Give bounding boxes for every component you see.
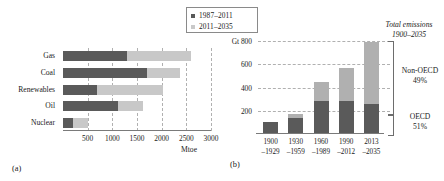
chart-b-annotation-oecd: OECD 51% — [396, 112, 444, 132]
chart-b-ytick-label: Gt 800 — [232, 37, 252, 46]
chart-b-xtick-line2: –2035 — [362, 148, 380, 158]
chart-a-category-labels: GasCoalRenewablesOilNuclear — [0, 48, 59, 131]
chart-b-bracket-non-oecd — [388, 41, 394, 115]
chart-b-plot-area — [258, 41, 384, 134]
chart-b-total-title: Total emissions 1900–2035 — [374, 20, 444, 40]
chart-a-bar-segment-1987-2011 — [63, 85, 97, 95]
chart-b-xtick-label: 1990–2012 — [337, 138, 355, 157]
panel-a-label: (a) — [12, 164, 21, 173]
legend-swatch-light-icon — [191, 25, 195, 29]
chart-b-bar-segment-non-oecd — [364, 42, 379, 104]
chart-b-bar — [339, 68, 354, 134]
chart-a-baseline — [63, 130, 211, 131]
chart-b-bar — [364, 42, 379, 134]
chart-a-xtick-label: 2500 — [179, 134, 194, 143]
chart-b-non-oecd-label: Non-OECD — [396, 66, 444, 76]
chart-b-bar-segment-oecd — [314, 101, 329, 134]
chart-b-oecd-value: 51% — [396, 122, 444, 132]
chart-b-ytick-labels: 200400600Gt 800 — [222, 41, 256, 134]
chart-a-bar-row — [63, 51, 211, 61]
chart-b-xtick-label: 1900–1929 — [262, 138, 280, 157]
chart-b-xtick-line2: –1929 — [262, 148, 280, 158]
chart-a-xtick-label: 1000 — [105, 134, 120, 143]
chart-b-non-oecd-value: 49% — [396, 76, 444, 86]
chart-a-bar-segment-1987-2011 — [63, 118, 73, 128]
chart-a-bar-row — [63, 85, 211, 95]
chart-b-xtick-line1: 1990 — [337, 138, 355, 148]
chart-b-xtick-line1: 1900 — [262, 138, 280, 148]
chart-b-bar-segment-non-oecd — [314, 82, 329, 101]
chart-b-bar — [314, 82, 329, 134]
chart-b-xtick-label: 1960–1989 — [312, 138, 330, 157]
chart-b-ytick-label: 400 — [241, 83, 252, 92]
chart-b-xtick-label: 2013–2035 — [362, 138, 380, 157]
chart-b-xtick-labels: 1900–19291930–19591960–19891990–20122013… — [258, 138, 384, 160]
chart-a-unit-label: Mtoe — [181, 145, 197, 154]
chart-panel-a: GasCoalRenewablesOilNuclear 500100015002… — [0, 42, 215, 181]
chart-a-xtick-label: 3000 — [204, 134, 219, 143]
chart-a-bar-segment-1987-2011 — [63, 51, 127, 61]
panel-b-label: (b) — [230, 160, 240, 169]
chart-b-bracket-oecd — [388, 115, 394, 136]
chart-a-xtick-label: 2000 — [154, 134, 169, 143]
chart-b-bar — [288, 114, 303, 134]
chart-b-bar-segment-oecd — [288, 118, 303, 134]
chart-b-xtick-label: 1930–1959 — [287, 138, 305, 157]
chart-a-category-label: Nuclear — [31, 118, 55, 128]
chart-b-baseline — [256, 133, 384, 134]
chart-b-ytick-label: 200 — [241, 106, 252, 115]
chart-a-bar-row — [63, 68, 211, 78]
chart-b-xtick-line1: 1930 — [287, 138, 305, 148]
chart-b-xtick-line2: –2012 — [337, 148, 355, 158]
chart-a-bar-segment-2011-2035 — [73, 118, 88, 128]
chart-a-category-label: Renewables — [18, 85, 55, 95]
chart-b-xtick-line1: 1960 — [312, 138, 330, 148]
chart-b-ytick-label: 600 — [241, 60, 252, 69]
chart-b-xtick-line2: –1959 — [287, 148, 305, 158]
chart-a-category-label: Coal — [41, 68, 55, 78]
chart-b-oecd-label: OECD — [396, 112, 444, 122]
chart-b-bar-segment-oecd — [339, 101, 354, 134]
chart-a-bar-segment-2011-2035 — [147, 68, 181, 78]
chart-a-bar-segment-2011-2035 — [127, 51, 191, 61]
chart-a-bar-row — [63, 118, 211, 128]
chart-a-gridline — [211, 48, 212, 131]
chart-a-bar-segment-1987-2011 — [63, 68, 147, 78]
chart-b-bar-segment-non-oecd — [339, 68, 354, 101]
chart-a-xtick-label: 500 — [82, 134, 93, 143]
chart-b-total-title-line2: 1900–2035 — [374, 30, 444, 40]
legend-swatch-dark-icon — [191, 14, 195, 18]
chart-b-bar-segment-oecd — [364, 104, 379, 134]
chart-b-annotation-non-oecd: Non-OECD 49% — [396, 66, 444, 86]
chart-panel-b: Total emissions 1900–2035 200400600Gt 80… — [222, 0, 444, 181]
chart-b-xtick-line1: 2013 — [362, 138, 380, 148]
chart-a-bar-row — [63, 101, 211, 111]
chart-a-category-label: Gas — [43, 51, 55, 61]
chart-a-bar-segment-1987-2011 — [63, 101, 118, 111]
chart-b-xtick-line2: –1989 — [312, 148, 330, 158]
chart-a-category-label: Oil — [45, 101, 55, 111]
chart-a-xtick-label: 1500 — [130, 134, 145, 143]
chart-a-plot-area — [63, 48, 211, 131]
chart-b-total-title-line1: Total emissions — [374, 20, 444, 30]
figure-container: 1987–2011 2011–2035 GasCoalRenewablesOil… — [0, 0, 444, 181]
chart-a-bar-segment-2011-2035 — [118, 101, 144, 111]
chart-a-bar-segment-2011-2035 — [97, 85, 164, 95]
